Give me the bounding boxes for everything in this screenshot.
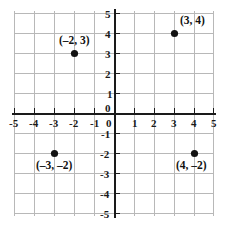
coordinate-grid-svg [0, 0, 228, 229]
y-tick-label-neg4: -4 [100, 189, 109, 200]
coordinate-plane: -5 -4 -3 -2 -1 0 1 2 3 4 5 5 4 3 2 1 0 -… [0, 0, 228, 229]
x-tick-label-neg1: -1 [90, 118, 99, 129]
data-point-3-4 [171, 30, 178, 37]
x-tick-label-neg3: -3 [49, 118, 58, 129]
x-tick-label-neg5: -5 [9, 118, 18, 129]
y-tick-label-pos1: 1 [107, 89, 113, 100]
data-point-4-neg2 [191, 150, 198, 157]
point-label-neg2-3: (–2, 3) [59, 35, 90, 47]
data-point-neg3-neg2 [51, 150, 58, 157]
y-tick-label-pos5: 5 [105, 9, 111, 20]
x-tick-label-pos3: 3 [171, 118, 177, 129]
point-label-neg3-neg2: (–3, –2) [36, 160, 72, 172]
y-tick-label-neg3: -3 [100, 169, 109, 180]
x-tick-label-pos5: 5 [211, 118, 217, 129]
point-label-3-4: (3, 4) [180, 15, 205, 27]
x-tick-label-neg2: -2 [69, 118, 78, 129]
y-tick-label-pos3: 3 [105, 49, 111, 60]
x-tick-label-pos1: 1 [132, 118, 138, 129]
y-tick-label-pos2: 2 [105, 69, 111, 80]
x-tick-label-pos4: 4 [191, 118, 197, 129]
y-tick-label-zero: 0 [105, 103, 111, 114]
y-tick-label-neg5: -5 [100, 209, 109, 220]
data-point-neg2-3 [71, 50, 78, 57]
x-tick-label-pos2: 2 [151, 118, 157, 129]
y-tick-label-pos4: 4 [105, 29, 111, 40]
point-label-4-neg2: (4, –2) [176, 160, 207, 172]
y-tick-label-neg1: -1 [101, 129, 110, 140]
x-tick-label-neg4: -4 [29, 118, 38, 129]
y-tick-label-neg2: -2 [100, 149, 109, 160]
